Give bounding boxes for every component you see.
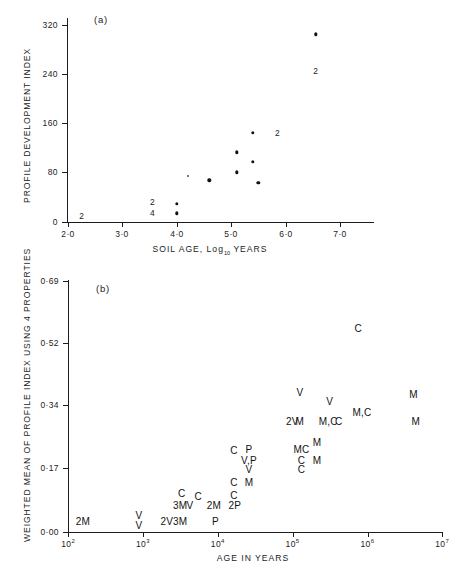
data-point-label: M (245, 477, 254, 488)
data-point-label: M (313, 454, 322, 465)
data-point-count-label: 2 (313, 66, 318, 76)
data-point-label: V (296, 386, 303, 397)
data-point-label: V (246, 464, 253, 475)
data-point-count-label: 2 (150, 197, 155, 207)
panel-b-data-layer: 2MVV2V3M3MCVC2MP2PCCCMVV,PP2VMVCCMCMMM,C… (0, 270, 456, 588)
data-point-label: C (230, 445, 237, 456)
data-point-label: P (212, 516, 219, 527)
data-point-label: C (355, 323, 362, 334)
panel-b: (b) 0·69 0·52 0·34 0·17 0·00 10210310410… (0, 270, 456, 588)
data-point-label: V,P (241, 454, 257, 465)
data-point-label: C (194, 491, 201, 502)
data-point (257, 181, 260, 184)
data-point-label: 2P (228, 500, 241, 511)
data-point-label: M (313, 436, 322, 447)
data-point-label: C (298, 464, 305, 475)
data-point-label: 2M (76, 516, 90, 527)
data-point-label: 3M (173, 500, 187, 511)
data-point-label: M (296, 416, 305, 427)
data-point-label: 2V (160, 516, 173, 527)
data-point-label: C (230, 477, 237, 488)
data-point-label: C (178, 487, 185, 498)
data-point (235, 170, 238, 173)
panel-a-data-layer: 22422 (0, 0, 456, 260)
data-point-label: 2M (207, 500, 221, 511)
data-point-count-label: 2 (79, 211, 84, 221)
data-point-label: C (230, 489, 237, 500)
data-point-count-label: 2 (275, 128, 280, 138)
data-point-label: 3M (173, 516, 187, 527)
data-point-label: V (136, 519, 143, 530)
data-point (187, 175, 189, 177)
data-point (175, 212, 178, 215)
panel-a: (a) 320 240 160 80 0 2·0 3·0 4·0 5·0 6·0… (0, 0, 456, 260)
data-point-label: V (326, 396, 333, 407)
data-point-label: C (298, 454, 305, 465)
data-point (251, 160, 254, 163)
data-point (314, 33, 317, 36)
data-point (251, 131, 254, 134)
data-point (235, 151, 238, 154)
data-point-label: P (246, 444, 253, 455)
data-point-label: M (409, 388, 418, 399)
data-point-label: C (335, 416, 342, 427)
figure-root: (a) 320 240 160 80 0 2·0 3·0 4·0 5·0 6·0… (0, 0, 456, 588)
data-point (175, 202, 178, 205)
data-point-label: M (412, 416, 421, 427)
data-point-label: M,C (352, 406, 371, 417)
data-point (208, 178, 211, 181)
data-point-count-label: 4 (150, 208, 155, 218)
data-point-label: V (186, 500, 193, 511)
data-point-label: MC (293, 444, 309, 455)
